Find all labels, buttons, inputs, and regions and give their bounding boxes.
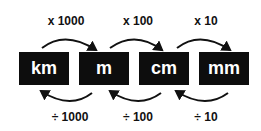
arrow-cm-to-m	[110, 91, 161, 101]
unit-km: km	[19, 52, 69, 85]
multiply-label-cm-mm: x 10	[176, 14, 236, 28]
unit-m: m	[79, 52, 129, 85]
divide-label-m-km: ÷ 1000	[40, 110, 100, 124]
multiply-label-km-m: x 1000	[36, 14, 96, 28]
divide-label-cm-m: ÷ 100	[108, 110, 168, 124]
arrow-cm-to-mm	[177, 39, 230, 50]
arrow-m-to-km	[41, 91, 92, 101]
multiply-label-m-cm: x 100	[108, 14, 168, 28]
divide-label-mm-cm: ÷ 10	[176, 110, 236, 124]
arrow-m-to-cm	[110, 39, 162, 50]
arrow-mm-to-cm	[176, 91, 228, 101]
unit-mm: mm	[199, 52, 249, 85]
arrow-km-to-m	[42, 39, 96, 50]
unit-cm: cm	[139, 52, 189, 85]
